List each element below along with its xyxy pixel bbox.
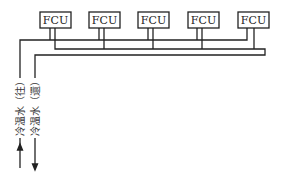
fcu-label-3: FCU xyxy=(141,14,166,27)
supply-pipe-label: 冷温水（往） xyxy=(14,76,26,136)
return-header-pipe xyxy=(35,28,265,78)
fcu-label-1: FCU xyxy=(43,14,68,27)
return-arrow-icon xyxy=(33,138,38,170)
piping-diagram: FCU FCU FCU FCU FCU 冷温水（往） 冷温水（還） xyxy=(0,0,287,178)
fcu-label-2: FCU xyxy=(92,14,117,27)
supply-arrow-icon xyxy=(18,138,23,168)
fcu-label-4: FCU xyxy=(191,14,216,27)
supply-header-pipe xyxy=(20,28,247,78)
fcu-label-5: FCU xyxy=(241,14,266,27)
return-pipe-label: 冷温水（還） xyxy=(29,76,41,136)
